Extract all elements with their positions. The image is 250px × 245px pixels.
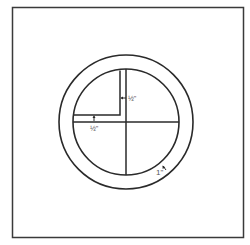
horizontal-offset-arrow [93,116,96,122]
ring-width-label: 1" [156,168,163,177]
horizontal-offset-label: ½" [90,125,99,132]
vertical-offset-label: ½" [128,95,137,102]
vertical-offset-arrow [121,97,127,100]
diagram-canvas: ½" ½" 1" [0,0,250,245]
